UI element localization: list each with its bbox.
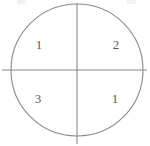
quadrant-label-upper-right: 2 [113, 38, 120, 51]
quadrant-label-upper-left: 1 [36, 38, 43, 51]
quadrant-label-lower-left: 3 [35, 92, 42, 105]
top-edge-artifact-right [127, 0, 136, 4]
top-edge-artifact-left [17, 0, 26, 4]
quadrant-label-lower-right: 1 [112, 92, 119, 105]
quadrant-circle-diagram: 1 2 3 1 [0, 0, 150, 146]
circle-diagram-canvas [0, 0, 150, 146]
